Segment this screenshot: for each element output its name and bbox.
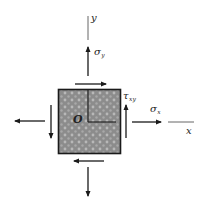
- x-axis-label: x: [186, 126, 192, 136]
- diagram-canvas: [0, 0, 203, 211]
- sigma-y-label: σy: [94, 47, 105, 58]
- tau-xy-label: τxy: [123, 91, 136, 102]
- y-axis-label: y: [91, 13, 97, 23]
- stress-element-diagram: y x O σy σx τxy: [0, 0, 203, 211]
- sigma-x-label: σx: [150, 104, 161, 115]
- origin-label: O: [73, 114, 83, 125]
